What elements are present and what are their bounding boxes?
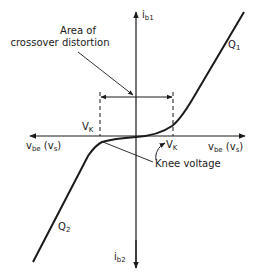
- vbe-right-paren-sub: s: [236, 146, 240, 154]
- vbe-right-paren: (v: [226, 141, 236, 152]
- ib1-sub: b1: [145, 14, 154, 22]
- q2-curve: [33, 137, 136, 262]
- q2-main: Q: [58, 221, 66, 232]
- knee-voltage-label: Knee voltage: [155, 159, 221, 169]
- area-pointer-arrow: [78, 52, 133, 95]
- knee-voltage-pointer: [103, 142, 153, 162]
- vbe-right-close: ): [239, 141, 243, 152]
- vbe-left-sub: be: [32, 145, 41, 153]
- q1-curve: [136, 12, 244, 137]
- vk-right-label: VK: [166, 140, 177, 150]
- vk-left-main: V: [82, 121, 89, 132]
- vbe-left-label: vbe (vs): [26, 141, 61, 151]
- ib2-label: ib2: [114, 252, 126, 262]
- vbe-left-close: ): [57, 140, 61, 151]
- area-label-line1: Area of: [38, 26, 118, 36]
- q2-label: Q2: [58, 222, 70, 232]
- ib2-sub: b2: [117, 256, 126, 264]
- vbe-left-paren-sub: s: [54, 145, 58, 153]
- vbe-right-label: vbe (vs): [208, 142, 243, 152]
- vk-right-sub: K: [173, 144, 178, 152]
- vk-left-sub: K: [89, 126, 94, 134]
- q2-sub: 2: [66, 226, 70, 234]
- ib1-label: ib1: [142, 10, 154, 20]
- area-label-line2: crossover distortion: [10, 38, 110, 48]
- vk-left-label: VK: [82, 122, 93, 132]
- vbe-left-paren: (v: [44, 140, 54, 151]
- vbe-right-sub: be: [214, 146, 223, 154]
- q1-main: Q: [228, 39, 236, 50]
- q1-sub: 1: [236, 44, 240, 52]
- vk-right-main: V: [166, 139, 173, 150]
- q1-label: Q1: [228, 40, 240, 50]
